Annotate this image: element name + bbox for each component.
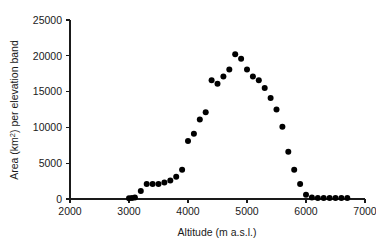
data-point bbox=[167, 177, 173, 183]
data-point bbox=[238, 56, 244, 62]
data-point bbox=[309, 195, 315, 201]
data-point bbox=[173, 174, 179, 180]
x-tick-label: 7000 bbox=[353, 205, 376, 217]
data-point bbox=[156, 181, 162, 187]
y-tick-label: 10000 bbox=[33, 121, 62, 133]
data-point bbox=[256, 77, 262, 83]
x-axis-title: Altitude (m a.s.l.) bbox=[178, 226, 257, 238]
x-tick-label: 2000 bbox=[58, 205, 82, 217]
data-point bbox=[215, 81, 221, 87]
data-point bbox=[244, 66, 250, 72]
data-point bbox=[138, 188, 144, 194]
data-point bbox=[338, 195, 344, 201]
y-tick-label: 15000 bbox=[33, 85, 62, 97]
data-point bbox=[132, 195, 138, 201]
y-tick-label: 5000 bbox=[39, 157, 63, 169]
data-point bbox=[279, 124, 285, 130]
data-point bbox=[150, 181, 156, 187]
data-point bbox=[232, 51, 238, 57]
y-axis-title-suffix: ) per elevation band bbox=[8, 40, 20, 133]
x-tick-label: 3000 bbox=[117, 205, 141, 217]
scatter-plot: 0500010000150002000025000 20003000400050… bbox=[0, 0, 376, 244]
data-point bbox=[250, 74, 256, 80]
data-point bbox=[226, 66, 232, 72]
y-axis-title-prefix: Area (km bbox=[8, 137, 20, 180]
data-point bbox=[321, 195, 327, 201]
data-point bbox=[197, 117, 203, 123]
svg-text:Area (km2) per elevation band: Area (km2) per elevation band bbox=[8, 40, 21, 180]
data-point bbox=[161, 180, 167, 186]
data-point bbox=[327, 195, 333, 201]
y-axis-title: Area (km2) per elevation band bbox=[8, 40, 21, 180]
data-point bbox=[274, 107, 280, 113]
data-point bbox=[285, 149, 291, 155]
x-tick-label: 4000 bbox=[176, 205, 200, 217]
data-point bbox=[203, 109, 209, 115]
data-point bbox=[220, 74, 226, 80]
y-tick-label: 25000 bbox=[33, 14, 62, 26]
data-point bbox=[333, 195, 339, 201]
data-point bbox=[144, 181, 150, 187]
data-point bbox=[185, 138, 191, 144]
y-tick-label: 20000 bbox=[33, 50, 62, 62]
y-axis-ticks: 0500010000150002000025000 bbox=[33, 14, 70, 205]
data-point bbox=[179, 167, 185, 173]
data-point bbox=[344, 195, 350, 201]
chart-figure: 0500010000150002000025000 20003000400050… bbox=[0, 0, 376, 244]
data-point bbox=[297, 181, 303, 187]
data-point bbox=[191, 131, 197, 137]
x-tick-label: 5000 bbox=[235, 205, 259, 217]
data-point bbox=[209, 77, 215, 83]
x-axis-ticks: 200030004000500060007000 bbox=[58, 199, 376, 217]
data-point bbox=[262, 85, 268, 91]
data-point bbox=[291, 167, 297, 173]
x-tick-label: 6000 bbox=[294, 205, 318, 217]
data-point-markers bbox=[126, 51, 350, 201]
data-point bbox=[315, 195, 321, 201]
y-tick-label: 0 bbox=[56, 193, 62, 205]
data-point bbox=[303, 192, 309, 198]
data-point bbox=[268, 95, 274, 101]
